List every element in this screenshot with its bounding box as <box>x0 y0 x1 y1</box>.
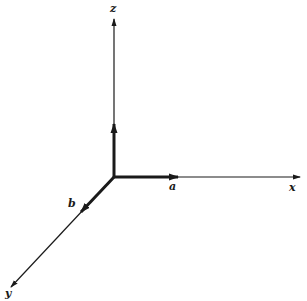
x-axis-label: x <box>288 181 296 194</box>
z-axis-label: z <box>109 2 117 15</box>
vector-a-label: a <box>169 180 176 193</box>
vector-b-label: b <box>68 197 76 210</box>
coordinate-diagram: z x y a b <box>0 0 307 301</box>
vector-b <box>81 176 115 212</box>
y-axis-label: y <box>4 287 13 300</box>
